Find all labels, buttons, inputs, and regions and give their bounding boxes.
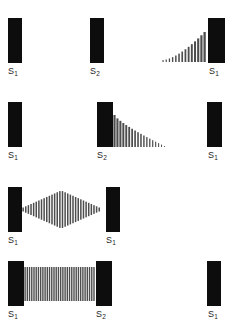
mirror-bar (8, 18, 22, 63)
mirror-label: S1 (209, 66, 219, 76)
mirror-bar (207, 102, 222, 147)
mirror-bar (106, 187, 120, 232)
cell-2-3: S1 (190, 88, 241, 176)
cell-4-3: S1 (190, 256, 241, 331)
wave-diamond (22, 189, 102, 230)
mirror-bar (8, 102, 22, 147)
row-4-uniform-standing-wave: S1 S2 S1 (0, 256, 241, 331)
mirror-bar (96, 261, 112, 306)
mirror-bar (8, 187, 22, 232)
wave-diagram-figure: S1 S2 S1 S1 (0, 0, 241, 331)
mirror-bar (90, 18, 104, 63)
mirror-label: S1 (208, 150, 218, 160)
row-1-wave-approaching: S1 S2 S1 (0, 0, 241, 90)
cell-2-1: S1 (0, 88, 80, 176)
mirror-label: S1 (208, 309, 218, 319)
mirror-label: S1 (106, 235, 116, 245)
cell-1-3: S1 (160, 0, 241, 90)
mirror-label: S2 (96, 309, 106, 319)
mirror-label: S1 (8, 150, 18, 160)
mirror-bar (208, 18, 225, 63)
row-2-wave-departing: S1 S2 S1 (0, 88, 241, 176)
mirror-label: S1 (8, 66, 18, 76)
mirror-label: S1 (8, 235, 18, 245)
mirror-bar (207, 261, 221, 306)
mirror-bar (97, 102, 113, 147)
wave-increasing (162, 30, 208, 63)
cell-3-3-empty (190, 174, 241, 258)
cell-2-2: S2 (80, 88, 190, 176)
cell-4-2: S2 (96, 256, 160, 331)
wave-decreasing (113, 112, 169, 148)
cell-1-1: S1 (0, 0, 80, 90)
cell-1-2: S2 (80, 0, 160, 90)
row-3-standing-wave-diamond: S1 S1 (0, 174, 241, 258)
mirror-bar (8, 261, 24, 306)
mirror-label: S2 (97, 150, 107, 160)
cell-3-2: S1 (100, 174, 160, 258)
wave-uniform (24, 266, 96, 302)
mirror-label: S2 (90, 66, 100, 76)
mirror-label: S1 (8, 309, 18, 319)
